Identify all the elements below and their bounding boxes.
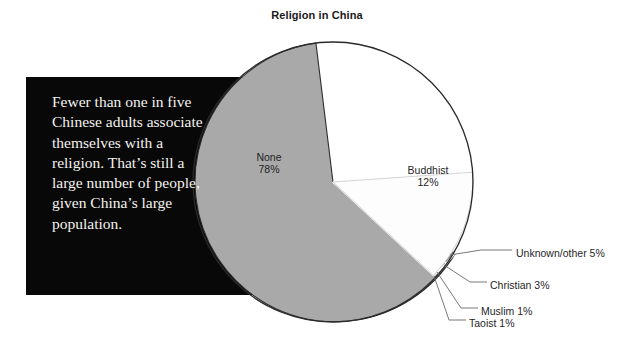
leader-line-taoist <box>434 276 466 320</box>
pie-label-none: None 78% <box>229 151 309 175</box>
pie-label-buddhist-name: Buddhist <box>408 164 449 176</box>
pie-label-none-value: 78% <box>229 163 309 175</box>
pie-label-christian: Christian 3% <box>490 279 550 291</box>
pie-label-none-name: None <box>256 151 281 163</box>
pie-label-taoist: Taoist 1% <box>469 317 515 329</box>
leader-line-unknown-other <box>450 250 512 255</box>
pie-label-buddhist-value: 12% <box>388 176 468 188</box>
pie-label-muslim: Muslim 1% <box>481 305 532 317</box>
pie-chart-figure: Religion in China Fewer than one in five… <box>0 0 634 343</box>
pie-label-buddhist: Buddhist 12% <box>388 164 468 188</box>
callout-text: Fewer than one in five Chinese adults as… <box>52 92 212 234</box>
pie-label-unknown-other: Unknown/other 5% <box>516 247 605 259</box>
leader-line-christian <box>444 265 487 282</box>
